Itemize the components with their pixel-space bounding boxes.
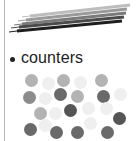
counters-icon — [0, 0, 138, 141]
counter-circle — [50, 126, 63, 139]
counter-circle — [113, 112, 126, 125]
counter-circle — [64, 104, 77, 117]
counter-circle — [42, 77, 55, 90]
counter-circle — [34, 107, 47, 120]
counter-circle — [39, 92, 52, 105]
counter-circle — [74, 76, 87, 89]
counter-circle — [101, 126, 114, 139]
counter-circle — [54, 88, 67, 101]
counter-circle — [25, 74, 38, 87]
counter-circle — [100, 102, 113, 115]
counter-circle — [82, 102, 95, 115]
counter-circle — [71, 90, 84, 103]
counter-circle — [49, 107, 62, 120]
counter-circle — [23, 91, 36, 104]
counter-circle — [57, 74, 70, 87]
counter-circle — [71, 126, 84, 139]
counter-circle — [97, 90, 110, 103]
counter-circle — [95, 74, 108, 87]
counter-circle — [84, 117, 97, 130]
counter-circle — [114, 88, 127, 101]
counter-circle — [24, 123, 37, 136]
